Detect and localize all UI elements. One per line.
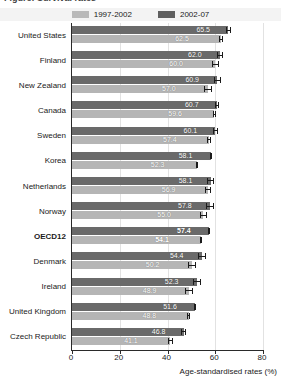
- bar-value-label: 58.1: [179, 177, 193, 185]
- bar-2002-07-czech-republic: [72, 328, 184, 336]
- error-bar: [215, 105, 218, 106]
- bar-value-label: 48.8: [143, 312, 157, 320]
- error-bar: [181, 331, 186, 332]
- gridline-80: [263, 23, 264, 350]
- error-bar: [213, 114, 216, 115]
- error-bar: [206, 206, 213, 207]
- error-bar: [217, 55, 224, 56]
- category-label-netherlands: Netherlands: [23, 182, 66, 191]
- bar-1997-2002-canada: [72, 110, 214, 118]
- bar-1997-2002-netherlands: [72, 186, 208, 194]
- bar-value-label: 58.1: [179, 152, 193, 160]
- bar-value-label: 50.2: [146, 261, 160, 269]
- category-axis-labels: United StatesFinlandNew ZealandCanadaSwe…: [0, 23, 69, 350]
- category-label-korea: Korea: [45, 156, 66, 165]
- bar-group: 58.152.3: [72, 152, 263, 173]
- bar-1997-2002-united-states: [72, 35, 221, 43]
- bar-1997-2002-new-zealand: [72, 85, 208, 93]
- bar-1997-2002-czech-republic: [72, 337, 170, 345]
- error-bar: [193, 281, 201, 282]
- bar-value-label: 54.4: [170, 252, 184, 260]
- bar-group: 60.157.4: [72, 127, 263, 148]
- bar-group: 65.562.5: [72, 26, 263, 47]
- category-label-united-states: United States: [18, 31, 66, 40]
- bar-value-label: 52.3: [165, 278, 179, 286]
- legend-label-1997-2002: 1997-2002: [94, 11, 132, 19]
- bar-group: 51.648.8: [72, 303, 263, 324]
- chart-title-strip: Figure: Survival rates: [0, 0, 281, 8]
- error-bar: [207, 180, 214, 181]
- error-bar: [200, 215, 207, 216]
- category-label-finland: Finland: [40, 56, 66, 65]
- bar-value-label: 57.8: [178, 202, 192, 210]
- error-bar: [194, 306, 196, 307]
- bar-1997-2002-sweden: [72, 136, 209, 144]
- category-label-denmark: Denmark: [34, 257, 66, 266]
- bar-value-label: 57.0: [162, 85, 176, 93]
- bar-1997-2002-oecd12: [72, 236, 201, 244]
- error-bar: [200, 240, 202, 241]
- bar-1997-2002-denmark: [72, 261, 192, 269]
- bar-chart: United StatesFinlandNew ZealandCanadaSwe…: [0, 23, 281, 387]
- bar-1997-2002-korea: [72, 161, 197, 169]
- category-label-sweden: Sweden: [37, 131, 66, 140]
- bar-value-label: 46.8: [152, 328, 166, 336]
- error-bar: [187, 315, 189, 316]
- chart-title: Figure: Survival rates: [4, 0, 96, 3]
- error-bar: [196, 164, 198, 165]
- category-label-ireland: Ireland: [42, 282, 66, 291]
- error-bar: [212, 64, 219, 65]
- error-bar: [208, 231, 210, 232]
- error-bar: [198, 256, 207, 257]
- bar-value-label: 54.1: [155, 236, 169, 244]
- chart-legend: 1997-2002 2002-07: [0, 8, 281, 21]
- error-bar: [213, 130, 217, 131]
- bar-1997-2002-finland: [72, 60, 215, 68]
- bar-value-label: 59.6: [168, 110, 182, 118]
- bar-value-label: 62.5: [175, 35, 189, 43]
- bar-value-label: 48.9: [143, 287, 157, 295]
- legend-swatch-2002-07: [158, 11, 175, 18]
- bar-group: 46.841.1: [72, 328, 263, 349]
- category-label-united-kingdom: United Kingdom: [9, 307, 66, 316]
- bar-value-label: 41.1: [124, 337, 138, 345]
- bar-1997-2002-ireland: [72, 287, 189, 295]
- x-tick-label-20: 20: [114, 353, 123, 362]
- plot-area: 65.562.562.060.060.957.060.759.660.157.4…: [71, 23, 263, 351]
- bar-value-label: 62.0: [188, 51, 202, 59]
- error-bar: [207, 139, 211, 140]
- x-tick-label-60: 60: [210, 353, 219, 362]
- bar-value-label: 56.9: [162, 186, 176, 194]
- bar-1997-2002-norway: [72, 211, 203, 219]
- error-bar: [219, 39, 223, 40]
- legend-label-2002-07: 2002-07: [180, 11, 209, 19]
- category-label-czech-republic: Czech Republic: [10, 332, 66, 341]
- x-tick-label-40: 40: [162, 353, 171, 362]
- bar-group: 58.156.9: [72, 177, 263, 198]
- bar-group: 57.855.0: [72, 202, 263, 223]
- error-bar: [168, 340, 173, 341]
- x-tick-label-80: 80: [258, 353, 267, 362]
- category-label-norway: Norway: [39, 207, 66, 216]
- error-bar: [204, 89, 212, 90]
- bar-1997-2002-united-kingdom: [72, 312, 189, 320]
- bar-group: 57.454.1: [72, 227, 263, 248]
- bar-value-label: 60.9: [185, 76, 199, 84]
- bar-value-label: 65.5: [196, 26, 210, 34]
- bar-value-label: 51.6: [163, 303, 177, 311]
- legend-item-2002-07: 2002-07: [158, 11, 209, 19]
- category-label-oecd12: OECD12: [34, 232, 66, 241]
- category-label-canada: Canada: [38, 106, 66, 115]
- error-bar: [214, 80, 222, 81]
- bar-group: 62.060.0: [72, 51, 263, 72]
- bar-value-label: 57.4: [163, 136, 177, 144]
- bar-value-label: 60.1: [183, 127, 197, 135]
- category-label-new-zealand: New Zealand: [19, 81, 66, 90]
- x-tick-label-0: 0: [69, 353, 73, 362]
- error-bar: [185, 290, 193, 291]
- bar-group: 60.759.6: [72, 101, 263, 122]
- x-axis-label: Age-standardised rates (%): [180, 367, 277, 376]
- bar-value-label: 60.0: [169, 60, 183, 68]
- legend-swatch-1997-2002: [72, 11, 89, 18]
- x-axis-tick-labels: 020406080: [0, 353, 281, 365]
